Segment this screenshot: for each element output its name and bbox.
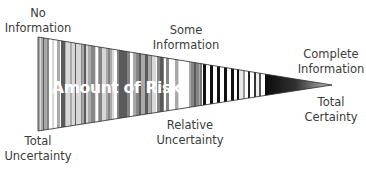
amount-of-risk-label: Amount of Risk bbox=[52, 79, 182, 97]
total-certainty-label: TotalCertainty bbox=[304, 95, 357, 124]
no-information-line-1: No bbox=[5, 6, 72, 21]
total-certainty-line-2: Certainty bbox=[304, 110, 357, 125]
relative-uncertainty-line-1: Relative bbox=[156, 118, 223, 133]
no-information-line-2: Information bbox=[5, 21, 72, 36]
total-certainty-line-1: Total bbox=[304, 95, 357, 110]
total-uncertainty-line-2: Uncertainty bbox=[4, 149, 71, 164]
complete-information-line-2: Information bbox=[298, 62, 365, 77]
some-information-label: SomeInformation bbox=[153, 23, 220, 52]
complete-information-label: CompleteInformation bbox=[298, 47, 365, 76]
some-information-line-1: Some bbox=[153, 23, 220, 38]
total-uncertainty-line-1: Total bbox=[4, 134, 71, 149]
total-uncertainty-label: TotalUncertainty bbox=[4, 134, 71, 163]
relative-uncertainty-line-2: Uncertainty bbox=[156, 133, 223, 148]
complete-information-line-1: Complete bbox=[298, 47, 365, 62]
some-information-line-2: Information bbox=[153, 38, 220, 53]
no-information-label: NoInformation bbox=[5, 6, 72, 35]
relative-uncertainty-label: RelativeUncertainty bbox=[156, 118, 223, 147]
